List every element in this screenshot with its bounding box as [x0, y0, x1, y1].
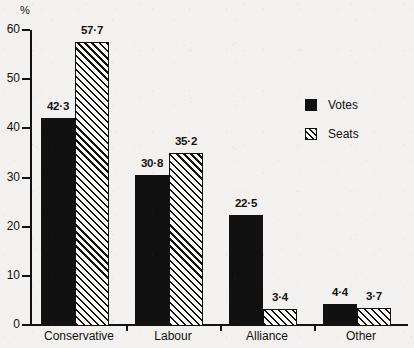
- chart-legend: Votes Seats: [305, 98, 359, 156]
- value-label-conservative-votes: 42·3: [33, 100, 83, 112]
- y-axis-line: [30, 30, 32, 326]
- category-label-other: Other: [314, 329, 408, 343]
- bar-conservative-seats: [75, 42, 109, 326]
- value-label-labour-votes: 30·8: [127, 157, 177, 169]
- bar-alliance-seats: [263, 309, 297, 326]
- bar-conservative-votes: [41, 118, 75, 326]
- y-tick-label-0: 0: [0, 317, 20, 331]
- grouped-bar-chart: % 0102030405060 42·357·730·835·222·53·44…: [0, 0, 414, 348]
- y-tick-20: [22, 226, 30, 228]
- hatched-square-icon: [305, 128, 317, 140]
- legend-item-seats: Seats: [305, 127, 359, 141]
- bar-labour-seats: [169, 153, 203, 326]
- bar-labour-votes: [135, 175, 169, 326]
- value-label-alliance-seats: 3·4: [255, 291, 305, 303]
- category-label-alliance: Alliance: [220, 329, 314, 343]
- y-tick-60: [22, 29, 30, 31]
- y-tick-label-10: 10: [0, 268, 20, 282]
- y-tick-40: [22, 127, 30, 129]
- value-label-conservative-seats: 57·7: [67, 24, 117, 36]
- y-tick-label-50: 50: [0, 71, 20, 85]
- y-tick-label-20: 20: [0, 219, 20, 233]
- bar-alliance-votes: [229, 215, 263, 326]
- solid-square-icon: [305, 99, 317, 111]
- category-label-conservative: Conservative: [32, 329, 126, 343]
- y-tick-label-40: 40: [0, 120, 20, 134]
- legend-label-seats: Seats: [328, 127, 359, 141]
- legend-label-votes: Votes: [328, 98, 358, 112]
- category-label-labour: Labour: [126, 329, 220, 343]
- legend-item-votes: Votes: [305, 98, 359, 112]
- value-label-labour-seats: 35·2: [161, 135, 211, 147]
- bar-other-seats: [357, 308, 391, 326]
- bar-other-votes: [323, 304, 357, 326]
- y-tick-label-30: 30: [0, 170, 20, 184]
- y-tick-0: [22, 324, 30, 326]
- y-tick-label-60: 60: [0, 22, 20, 36]
- value-label-alliance-votes: 22·5: [221, 197, 271, 209]
- y-axis-unit-label: %: [20, 4, 30, 16]
- value-label-other-seats: 3·7: [349, 290, 399, 302]
- y-tick-50: [22, 78, 30, 80]
- y-tick-30: [22, 177, 30, 179]
- y-tick-10: [22, 275, 30, 277]
